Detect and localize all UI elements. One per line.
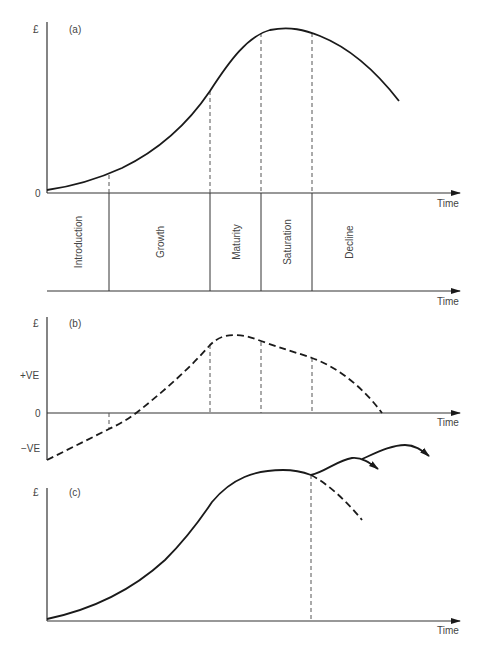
extension-1-curve: [311, 458, 378, 475]
panel-b-stage-markers: [109, 342, 312, 429]
panel-a-y-label: £: [33, 24, 39, 35]
panel-b-zero-label: 0: [35, 408, 41, 419]
panel-b-tag: (b): [69, 318, 81, 329]
panel-c-x-label: Time: [437, 625, 459, 636]
panel-b-x-label: Time: [437, 417, 459, 428]
panel-a-x-label: Time: [437, 198, 459, 209]
stage-introduction: Introduction: [73, 216, 84, 268]
stage-decline: Decline: [344, 225, 355, 259]
panel-a-stage-markers: [109, 33, 312, 193]
panel-b-pos-label: +VE: [20, 370, 40, 381]
stage-saturation: Saturation: [282, 219, 293, 265]
decline-without-extension: [311, 475, 362, 520]
stage-maturity: Maturity: [231, 224, 242, 260]
extension-2-curve: [362, 445, 429, 459]
profit-curve: [47, 335, 382, 460]
panel-a-origin-label: 0: [35, 188, 41, 199]
product-life-cycle-diagram: £ (a) 0 Time Time Introduction Growth Ma…: [0, 0, 482, 655]
panel-b-neg-label: −VE: [21, 443, 41, 454]
panel-a: £ (a) 0 Time Time Introduction Growth Ma…: [33, 22, 460, 307]
panel-b: £ (b) +VE 0 −VE Time: [20, 317, 460, 460]
sales-curve: [47, 28, 399, 190]
panel-b-y-label: £: [33, 318, 39, 329]
stage-time-label: Time: [437, 296, 459, 307]
panel-a-tag: (a): [69, 24, 81, 35]
panel-c: £ (c) Time: [33, 445, 460, 636]
panel-c-y-label: £: [33, 487, 39, 498]
panel-c-sales-curve: [47, 470, 311, 619]
panel-c-tag: (c): [69, 487, 81, 498]
stage-growth: Growth: [155, 226, 166, 258]
